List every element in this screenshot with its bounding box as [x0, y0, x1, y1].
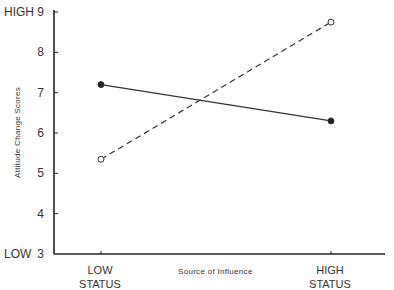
filled-circle-marker [328, 118, 334, 124]
y-tick-label: 4 [24, 208, 44, 220]
chart-plot-area [0, 0, 394, 290]
open-circle-marker [98, 156, 104, 162]
x-category-high: HIGH STATUS [300, 263, 360, 290]
filled-circle-marker [98, 82, 104, 88]
y-tick-label: 9 [24, 6, 44, 18]
y-tick-label: 6 [24, 127, 44, 139]
x-category-high-line1: HIGH [300, 263, 360, 277]
open-circle-marker [328, 19, 334, 25]
y-tick-label: 8 [24, 46, 44, 58]
y-axis-title: Attitude Change Scores [13, 87, 22, 178]
x-axis-title: Source of Influence [178, 267, 253, 276]
x-category-low-line1: LOW [70, 263, 130, 277]
x-category-low: LOW STATUS [70, 263, 130, 290]
y-tick-label: 3 [24, 248, 44, 260]
x-category-low-line2: STATUS [70, 277, 130, 290]
y-tick-label: 5 [24, 167, 44, 179]
y-tick-label: 7 [24, 87, 44, 99]
x-category-high-line2: STATUS [300, 277, 360, 290]
